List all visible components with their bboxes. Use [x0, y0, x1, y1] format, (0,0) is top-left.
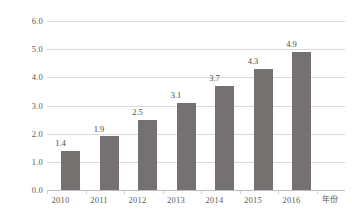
x-axis-tick: [47, 190, 48, 194]
x-axis-line: [47, 190, 345, 191]
bar-chart: 6.0 5.0 4.0 3.0 2.0 1.0 0.0 1.4 1.9 2.5 …: [0, 0, 352, 221]
x-axis-tick: [201, 190, 202, 194]
bar: [292, 52, 311, 190]
x-axis-tick-label: 2016: [270, 196, 314, 205]
bar: [61, 151, 80, 190]
bar-value-label: 3.1: [156, 91, 196, 100]
bar: [177, 103, 196, 190]
x-axis-tick: [240, 190, 241, 194]
y-axis-tick-label: 5.0: [3, 45, 43, 54]
bar: [215, 86, 234, 190]
x-axis-tick: [278, 190, 279, 194]
x-axis-tick-label: 2013: [154, 196, 198, 205]
x-axis-tick-label: 2015: [231, 196, 275, 205]
y-axis-tick-label: 1.0: [3, 158, 43, 167]
bar-value-label: 4.3: [233, 57, 273, 66]
x-axis-tick-label: 2011: [77, 196, 121, 205]
x-axis-tick: [317, 190, 318, 194]
x-axis-tick: [86, 190, 87, 194]
bar-value-label: 2.5: [118, 108, 158, 117]
x-axis-tick: [124, 190, 125, 194]
y-axis-tick-label: 2.0: [3, 130, 43, 139]
bar: [138, 120, 157, 190]
bar: [100, 136, 119, 190]
y-axis-tick-label: 6.0: [3, 17, 43, 26]
bar-value-label: 1.9: [79, 125, 119, 134]
y-axis-tick-label: 4.0: [3, 73, 43, 82]
y-axis-tick-label: 3.0: [3, 102, 43, 111]
x-axis-title: 年份: [322, 196, 338, 204]
y-axis-tick-label: 0.0: [3, 186, 43, 195]
bar-value-label: 1.4: [41, 139, 81, 148]
x-axis-tick-label: 2014: [193, 196, 237, 205]
bar-value-label: 3.7: [195, 74, 235, 83]
x-axis-tick: [163, 190, 164, 194]
gridline: [47, 49, 345, 50]
x-axis-tick-label: 2010: [39, 196, 83, 205]
y-axis-labels: 6.0 5.0 4.0 3.0 2.0 1.0 0.0: [0, 0, 43, 221]
bar-value-label: 4.9: [272, 40, 312, 49]
x-axis-tick-label: 2012: [116, 196, 160, 205]
bar: [254, 69, 273, 190]
gridline: [47, 21, 345, 22]
